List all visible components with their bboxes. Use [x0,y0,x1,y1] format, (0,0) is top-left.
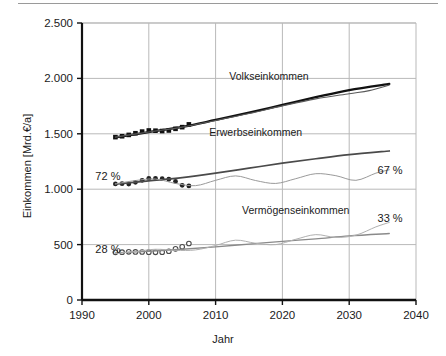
y-tick-label: 2.000 [44,72,73,84]
chart-figure: Einkommen [Mrd.€/a] Jahr 05001.0001.5002… [0,0,446,356]
tick-marks [77,23,416,305]
x-tick-label: 2040 [403,309,429,321]
y-tick-label: 1.500 [44,128,73,140]
series-label: Vermögenseinkommen [242,204,350,216]
tick-labels: 05001.0001.5002.0002.5001990200020102020… [44,17,429,321]
y-tick-label: 1.000 [44,183,73,195]
x-tick-label: 2030 [336,309,362,321]
percentage-label: 33 % [378,212,403,224]
x-tick-label: 2020 [270,309,296,321]
percentage-label: 28 % [95,243,120,255]
series-line [115,222,389,253]
percentage-label: 72 % [95,170,120,182]
x-tick-label: 2000 [136,309,162,321]
axis-lines [82,23,416,300]
y-tick-label: 0 [67,294,73,306]
series-layer [113,84,389,255]
y-tick-label: 2.500 [44,17,73,29]
x-tick-label: 2010 [203,309,229,321]
plot-canvas: 05001.0001.5002.0002.5001990200020102020… [0,0,446,356]
data-point-marker [180,245,185,250]
percentage-label: 67 % [378,164,403,176]
data-point-marker [187,241,192,246]
series-label: Erwerbseinkommen [209,126,302,138]
series-annotations: VolkseinkommenErwerbseinkommenVermögense… [95,70,402,256]
vertical-gridlines [82,23,416,300]
series-label: Volkseinkommen [229,70,309,82]
x-tick-label: 1990 [69,309,95,321]
y-tick-label: 500 [54,239,73,251]
